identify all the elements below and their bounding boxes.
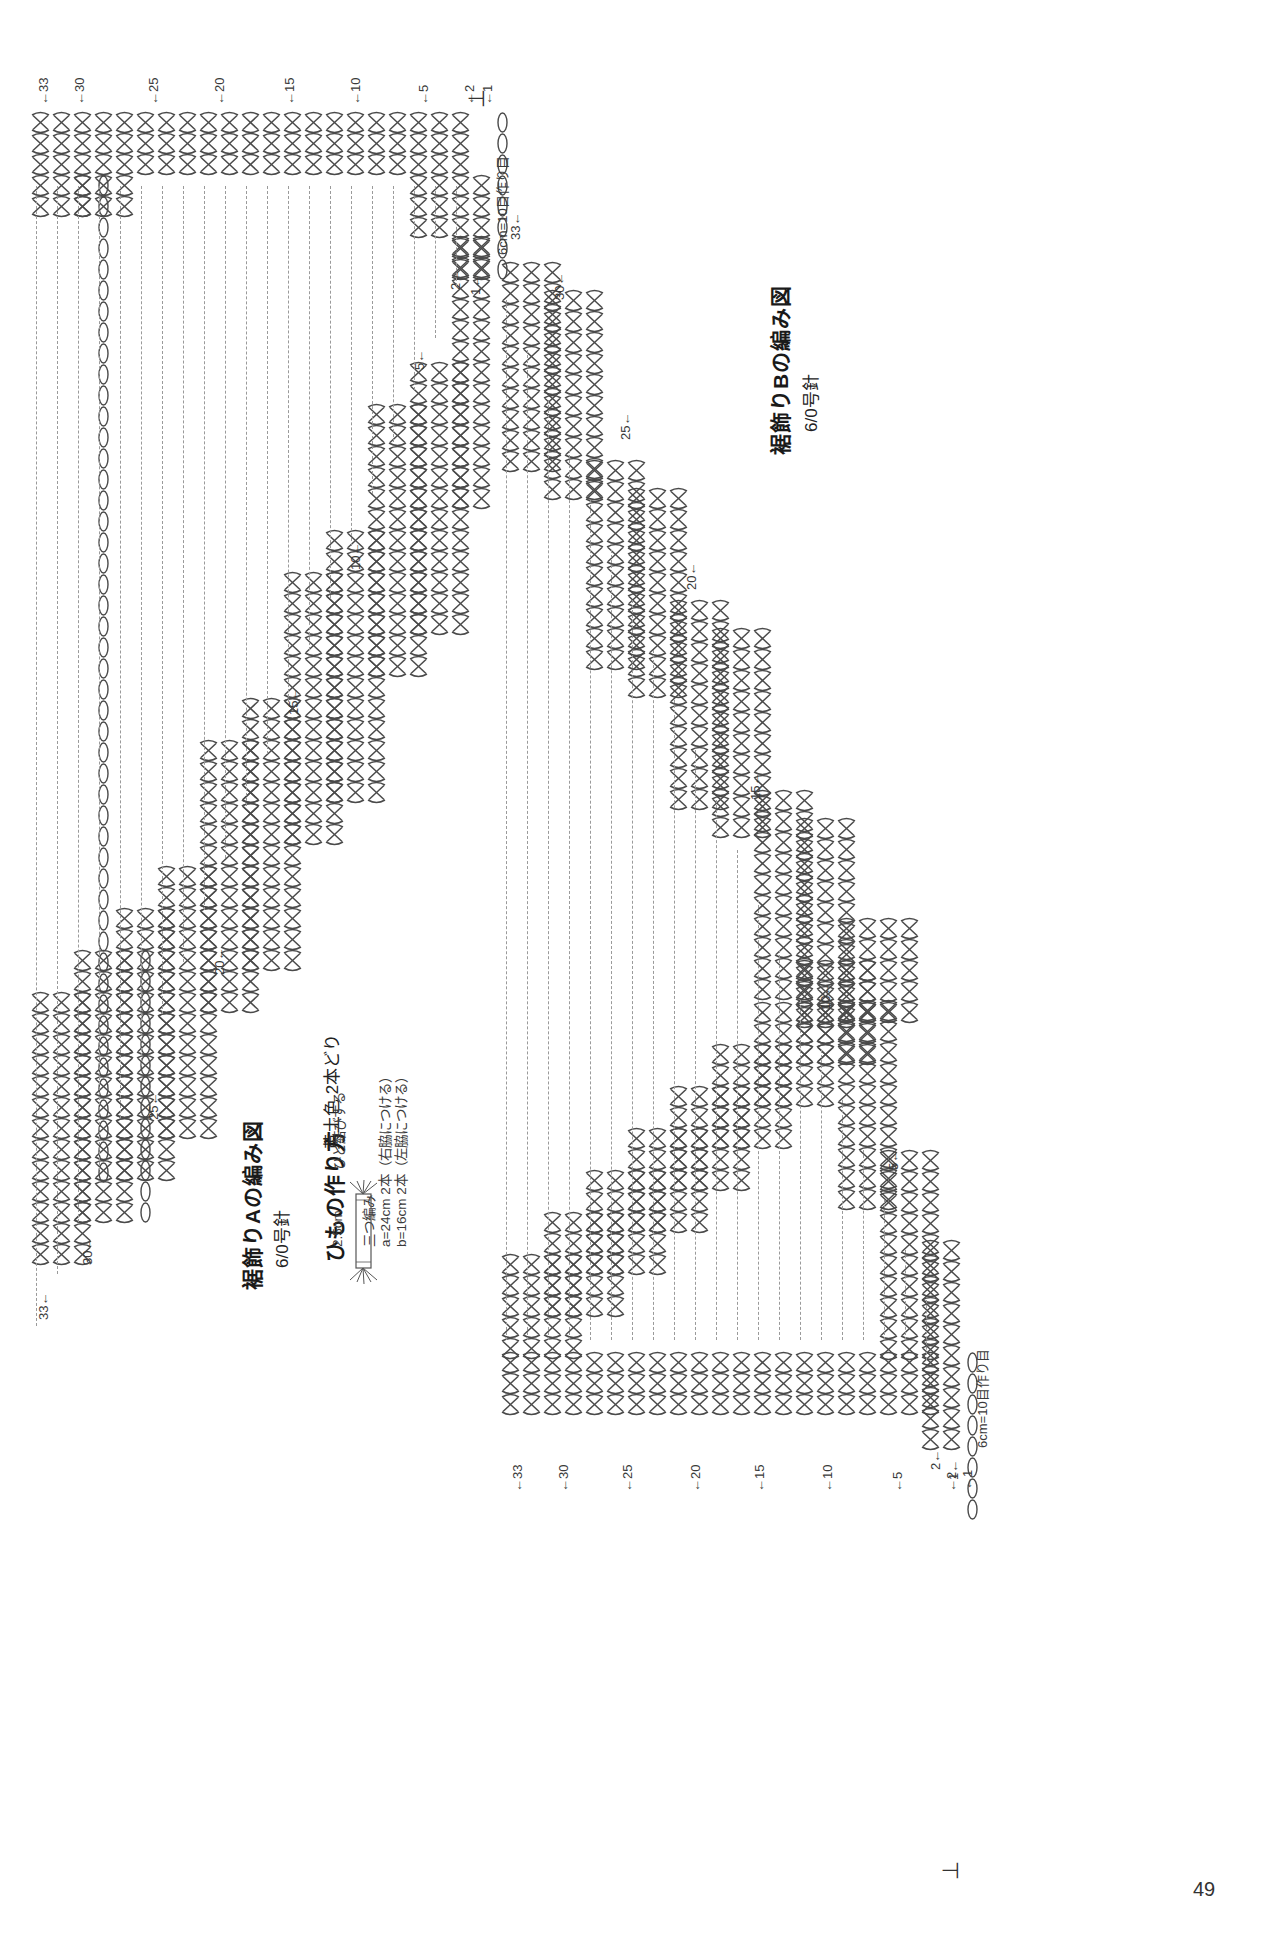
stitch-symbol xyxy=(563,479,584,500)
stitch-symbol xyxy=(815,1373,836,1394)
stitch-symbol xyxy=(857,981,878,1002)
stitch-symbol xyxy=(429,572,450,593)
row-label-right: 2← xyxy=(928,1450,943,1470)
stitch-symbol xyxy=(836,965,857,986)
stitch-symbol xyxy=(878,1213,899,1234)
stitch-symbol xyxy=(471,217,492,238)
stitch-symbol xyxy=(794,1007,815,1028)
stitch-symbol xyxy=(605,628,626,649)
stitch-symbol xyxy=(408,112,429,133)
stitch-symbol xyxy=(261,698,282,719)
stitch-symbol xyxy=(240,782,261,803)
stitch-symbol xyxy=(626,1128,647,1149)
stitch-symbol xyxy=(857,1021,878,1042)
stitch-symbol xyxy=(542,1338,563,1359)
stitch-symbol xyxy=(303,782,324,803)
stitch-symbol xyxy=(731,1352,752,1373)
stitch-symbol xyxy=(240,992,261,1013)
stitch-symbol xyxy=(303,698,324,719)
stitch-symbol xyxy=(752,1373,773,1394)
stitch-symbol xyxy=(156,154,177,175)
stitch-symbol xyxy=(387,614,408,635)
stitch-symbol xyxy=(563,458,584,479)
stitch-symbol xyxy=(408,154,429,175)
stitch-symbol xyxy=(72,133,93,154)
stitch-symbol xyxy=(72,1034,93,1055)
chain-stitch-symbol xyxy=(93,490,114,511)
stitch-symbol xyxy=(542,1212,563,1233)
chain-stitch-symbol xyxy=(93,931,114,952)
stitch-symbol xyxy=(450,467,471,488)
stitch-symbol xyxy=(366,572,387,593)
stitch-symbol xyxy=(815,923,836,944)
stitch-symbol xyxy=(689,600,710,621)
stitch-symbol xyxy=(135,133,156,154)
chain-stitch-symbol xyxy=(93,553,114,574)
stitch-symbol xyxy=(689,1128,710,1149)
stitch-symbol xyxy=(773,937,794,958)
stitch-symbol xyxy=(521,409,542,430)
stitch-symbol xyxy=(815,818,836,839)
stitch-symbol xyxy=(752,979,773,1000)
stitch-symbol xyxy=(626,635,647,656)
stitch-symbol xyxy=(198,887,219,908)
guide-line xyxy=(737,850,738,1340)
stitch-symbol xyxy=(282,908,303,929)
stitch-symbol xyxy=(836,1373,857,1394)
stitch-symbol xyxy=(710,1044,731,1065)
stitch-symbol xyxy=(282,845,303,866)
stitch-symbol xyxy=(878,1126,899,1147)
stitch-symbol xyxy=(177,154,198,175)
chain-stitch-symbol xyxy=(93,511,114,532)
stitch-symbol xyxy=(521,1394,542,1415)
stitch-symbol xyxy=(773,1128,794,1149)
hem-a-title: 裾飾りAの編み図 xyxy=(236,1120,266,1290)
stitch-symbol xyxy=(450,614,471,635)
stitch-symbol xyxy=(668,509,689,530)
stitch-symbol xyxy=(668,1107,689,1128)
stitch-symbol xyxy=(408,446,429,467)
chain-stitch-symbol xyxy=(93,1036,114,1057)
stitch-symbol xyxy=(941,1303,962,1324)
stitch-symbol xyxy=(156,1034,177,1055)
guide-line xyxy=(435,186,436,338)
stitch-symbol xyxy=(563,395,584,416)
stitch-symbol xyxy=(542,437,563,458)
stitch-symbol xyxy=(752,1352,773,1373)
guide-line xyxy=(716,800,717,1340)
stitch-symbol xyxy=(303,593,324,614)
stitch-symbol xyxy=(177,133,198,154)
stitch-symbol xyxy=(710,754,731,775)
stitch-symbol xyxy=(51,1223,72,1244)
stitch-symbol xyxy=(198,845,219,866)
stitch-symbol xyxy=(471,383,492,404)
cord-knot-note: ひと結びする xyxy=(328,1092,348,1170)
stitch-symbol xyxy=(941,1366,962,1387)
chain-stitch-symbol xyxy=(93,196,114,217)
stitch-symbol xyxy=(387,404,408,425)
stitch-symbol xyxy=(794,965,815,986)
stitch-symbol xyxy=(303,154,324,175)
stitch-symbol xyxy=(710,670,731,691)
stitch-symbol xyxy=(429,196,450,217)
stitch-symbol xyxy=(605,1296,626,1317)
stitch-symbol xyxy=(51,1181,72,1202)
stitch-symbol xyxy=(282,782,303,803)
stitch-symbol xyxy=(240,845,261,866)
stitch-symbol xyxy=(198,1076,219,1097)
row-label-left: ←15 xyxy=(282,78,297,105)
stitch-symbol xyxy=(156,133,177,154)
stitch-symbol xyxy=(857,960,878,981)
stitch-symbol xyxy=(752,1128,773,1149)
guide-line xyxy=(372,186,373,494)
stitch-symbol xyxy=(626,1352,647,1373)
stitch-symbol xyxy=(836,902,857,923)
stitch-symbol xyxy=(626,488,647,509)
stitch-symbol xyxy=(324,803,345,824)
stitch-symbol xyxy=(366,656,387,677)
stitch-symbol xyxy=(773,832,794,853)
guide-line xyxy=(204,186,205,910)
stitch-symbol xyxy=(773,853,794,874)
stitch-symbol xyxy=(647,656,668,677)
stitch-symbol xyxy=(710,817,731,838)
